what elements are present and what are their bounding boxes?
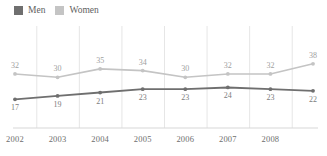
data-label: 34 [139, 59, 147, 67]
data-point [183, 87, 187, 91]
x-tick-label: 2002 [6, 134, 24, 144]
data-label: 38 [309, 52, 317, 60]
data-point [311, 89, 315, 93]
data-point [141, 69, 145, 73]
data-point [226, 86, 230, 90]
data-label: 30 [181, 65, 189, 73]
legend-label-men: Men [28, 6, 45, 16]
data-point [13, 97, 17, 101]
data-label: 23 [181, 94, 189, 102]
data-point [56, 94, 60, 98]
data-point [183, 75, 187, 79]
legend-item-men[interactable]: Men [14, 6, 45, 16]
data-point [269, 87, 273, 91]
data-point [141, 87, 145, 91]
data-label: 30 [54, 65, 62, 73]
data-label: 24 [224, 92, 232, 100]
legend-item-women[interactable]: Women [55, 6, 98, 16]
data-label: 32 [11, 62, 19, 70]
data-point [98, 91, 102, 95]
data-label: 17 [11, 104, 19, 112]
x-tick-label: 2007 [219, 134, 237, 144]
chart-legend: Men Women [14, 6, 99, 16]
legend-swatch-women [55, 6, 64, 15]
data-label: 32 [266, 62, 274, 70]
data-point [98, 67, 102, 71]
x-tick-label: 2003 [49, 134, 67, 144]
data-label: 35 [96, 57, 104, 65]
data-label: 32 [224, 62, 232, 70]
data-label: 21 [96, 98, 104, 106]
data-point [13, 72, 17, 76]
x-tick-label: 2008 [262, 134, 280, 144]
x-tick-label: 2004 [91, 134, 109, 144]
x-tick-label: 2005 [134, 134, 152, 144]
plot-svg [0, 24, 327, 132]
x-axis-labels: 2002200320042005200620072008 [0, 134, 327, 148]
legend-label-women: Women [69, 6, 98, 16]
gridlines [37, 26, 292, 128]
data-label: 19 [54, 101, 62, 109]
legend-swatch-men [14, 6, 23, 15]
data-label: 22 [309, 96, 317, 104]
line-chart: Men Women 323035343032323817192123232423… [0, 0, 327, 156]
x-tick-label: 2006 [176, 134, 194, 144]
plot-area: 32303534303232381719212323242322 [0, 24, 327, 132]
data-point [56, 75, 60, 79]
data-point [269, 72, 273, 76]
data-point [311, 62, 315, 66]
data-point [226, 72, 230, 76]
data-label: 23 [266, 94, 274, 102]
chart-title-truncated [0, 0, 327, 2]
data-label: 23 [139, 94, 147, 102]
